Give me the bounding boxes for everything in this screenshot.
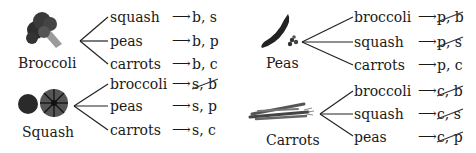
arrow-icon: ⟶ (172, 33, 191, 49)
arrow-icon: ⟶ (172, 76, 191, 92)
arrow-icon: ⟶ (418, 9, 437, 25)
arrow-icon: ⟶ (172, 9, 191, 25)
second-choice-label: broccoli (110, 76, 167, 92)
second-choice-label: squash (354, 106, 404, 122)
strikethrough-mark (436, 106, 466, 122)
tree-group-broccoli: Broccoli squash peas carrots ⟶ ⟶ ⟶ b, s … (0, 0, 238, 76)
strikethrough-mark (436, 83, 466, 99)
strikethrough-mark (436, 129, 466, 145)
arrow-icon: ⟶ (172, 122, 191, 138)
outcome-pair: b, c (192, 56, 218, 72)
tree-group-peas: Peas broccoli squash carrots ⟶ ⟶ ⟶ p, b … (238, 0, 476, 76)
outcome-pair-crossed-out: c, p (437, 129, 463, 145)
arrow-icon: ⟶ (418, 129, 437, 145)
arrow-icon: ⟶ (418, 83, 437, 99)
outcome-pair: b, p (192, 33, 219, 49)
outcome-pair-crossed-out: c, b (437, 83, 463, 99)
strikethrough-mark (191, 76, 221, 92)
outcome-pair: p, c (437, 57, 463, 73)
arrow-icon: ⟶ (418, 34, 437, 50)
outcome-pair: b, s (192, 9, 217, 25)
second-choice-label: carrots (110, 122, 161, 138)
outcome-pair-crossed-out: p, s (437, 34, 462, 50)
arrow-icon: ⟶ (172, 56, 191, 72)
outcome-pair-crossed-out: p, b (437, 9, 464, 25)
second-choice-label: squash (354, 34, 404, 50)
second-choice-label: carrots (110, 56, 161, 72)
second-choice-label: carrots (354, 57, 405, 73)
strikethrough-mark (436, 9, 466, 25)
tree-group-carrots: Carrots broccoli squash peas ⟶ ⟶ ⟶ c, b … (238, 76, 476, 152)
outcome-pair-crossed-out: s, b (192, 76, 217, 92)
second-choice-label: broccoli (354, 83, 411, 99)
arrow-icon: ⟶ (418, 106, 437, 122)
second-choice-label: peas (110, 33, 143, 49)
strikethrough-mark (436, 34, 466, 50)
second-choice-label: squash (110, 9, 160, 25)
second-choice-label: peas (110, 98, 143, 114)
outcome-pair: s, c (192, 122, 216, 138)
outcome-pair-crossed-out: c, s (437, 106, 461, 122)
arrow-icon: ⟶ (418, 57, 437, 73)
tree-group-squash: Squash broccoli peas carrots ⟶ ⟶ ⟶ s, b … (0, 76, 238, 152)
second-choice-label: broccoli (354, 9, 411, 25)
outcome-pair: s, p (192, 98, 217, 114)
second-choice-label: peas (354, 129, 387, 145)
arrow-icon: ⟶ (172, 98, 191, 114)
